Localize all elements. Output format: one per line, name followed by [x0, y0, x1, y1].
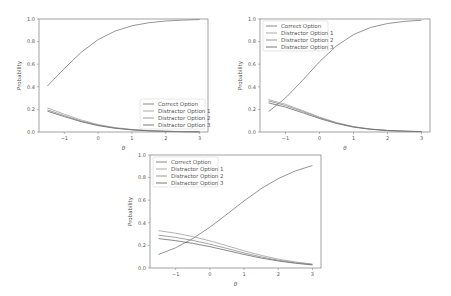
- x-tick-label: 3: [420, 135, 423, 141]
- x-tick-label: 2: [164, 135, 167, 141]
- chart-top-right: −101230.00.20.40.60.81.0θProbabilityCorr…: [237, 16, 430, 151]
- y-tick-label: 0.2: [248, 106, 256, 112]
- x-tick-label: 1: [352, 135, 355, 141]
- legend-label: Correct Option: [281, 23, 322, 30]
- x-axis-label: θ: [343, 145, 347, 151]
- y-tick-label: 0.2: [138, 242, 146, 248]
- y-tick-label: 0.4: [138, 220, 146, 226]
- legend-label: Correct Option: [158, 101, 199, 108]
- x-tick-label: 1: [130, 135, 133, 141]
- y-tick-label: 0.8: [138, 174, 146, 180]
- legend-label: Distractor Option 3: [281, 44, 334, 51]
- y-tick-label: 0.0: [27, 129, 35, 135]
- legend: Correct OptionDistractor Option 1Distrac…: [263, 21, 334, 51]
- x-axis-label: θ: [122, 145, 126, 151]
- y-tick-label: 0.4: [27, 84, 35, 90]
- y-tick-label: 0.6: [138, 197, 146, 203]
- x-tick-label: 2: [277, 271, 280, 277]
- y-tick-label: 0.8: [248, 38, 256, 44]
- y-tick-label: 0.0: [248, 129, 256, 135]
- x-tick-label: 0: [318, 135, 321, 141]
- y-tick-label: 0.0: [138, 265, 146, 271]
- series-line-3: [269, 101, 422, 132]
- legend-label: Distractor Option 1: [281, 30, 334, 37]
- y-tick-label: 0.4: [248, 84, 256, 90]
- legend-label: Distractor Option 2: [158, 115, 211, 122]
- legend-label: Distractor Option 3: [171, 180, 224, 187]
- y-tick-label: 0.2: [27, 106, 35, 112]
- x-tick-label: 3: [198, 135, 201, 141]
- series-line-1: [47, 20, 199, 86]
- y-tick-label: 0.8: [27, 38, 35, 44]
- y-tick-label: 0.6: [27, 61, 35, 67]
- series-line-3: [159, 235, 313, 264]
- x-tick-label: 0: [97, 135, 100, 141]
- series-line-2: [159, 231, 313, 264]
- chart-top-left: −101230.00.20.40.60.81.0θProbabilityCorr…: [16, 16, 211, 151]
- legend: Correct OptionDistractor Option 1Distrac…: [140, 99, 211, 129]
- legend-label: Distractor Option 2: [281, 37, 334, 44]
- legend-label: Distractor Option 1: [158, 108, 211, 115]
- x-tick-label: 1: [242, 271, 245, 277]
- y-axis-label: Probability: [237, 60, 244, 90]
- x-tick-label: 0: [208, 271, 211, 277]
- x-tick-label: −1: [172, 271, 179, 277]
- legend-label: Correct Option: [171, 159, 212, 166]
- x-tick-label: 3: [311, 271, 314, 277]
- legend-label: Distractor Option 2: [171, 173, 224, 180]
- x-tick-label: 2: [386, 135, 389, 141]
- y-tick-label: 0.6: [248, 61, 256, 67]
- chart-bottom-center: −101230.00.20.40.60.81.0θProbabilityCorr…: [127, 152, 321, 287]
- y-axis-label: Probability: [127, 196, 134, 226]
- figure-canvas: −101230.00.20.40.60.81.0θProbabilityCorr…: [0, 0, 451, 296]
- series-line-2: [269, 100, 422, 132]
- legend-label: Distractor Option 3: [158, 122, 211, 129]
- y-tick-label: 1.0: [248, 16, 256, 22]
- x-axis-label: θ: [234, 281, 238, 287]
- legend: Correct OptionDistractor Option 1Distrac…: [153, 157, 224, 187]
- x-tick-label: −1: [282, 135, 289, 141]
- x-tick-label: −1: [61, 135, 68, 141]
- legend-label: Distractor Option 1: [171, 166, 224, 173]
- y-tick-label: 1.0: [138, 152, 146, 158]
- y-tick-label: 1.0: [27, 16, 35, 22]
- y-axis-label: Probability: [16, 60, 23, 90]
- series-line-4: [269, 103, 422, 132]
